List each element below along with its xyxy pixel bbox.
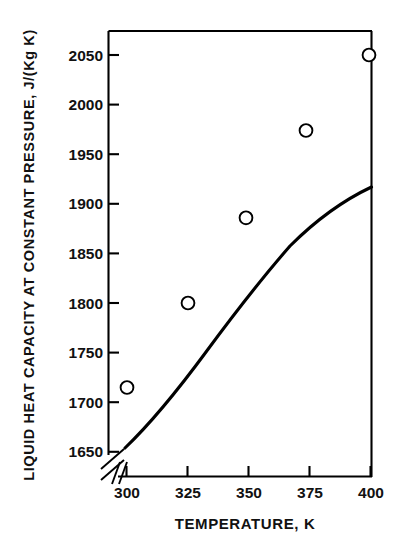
x-tick-label-350: 350 [236, 484, 262, 501]
x-axis-title: TEMPERATURE, K [175, 515, 316, 532]
y-tick-label-1700: 1700 [69, 394, 103, 411]
x-tick-label-375: 375 [297, 484, 323, 501]
x-tick-label-400: 400 [358, 484, 384, 501]
data-point-300 [121, 381, 134, 394]
scatter-plot: 2050 2000 1950 1900 1850 1800 1750 1700 … [0, 0, 402, 555]
y-tick-label-2050: 2050 [69, 47, 103, 64]
chart-figure: 2050 2000 1950 1900 1850 1800 1750 1700 … [0, 0, 402, 555]
y-tick-labels: 2050 2000 1950 1900 1850 1800 1750 1700 … [69, 47, 103, 461]
x-tick-label-300: 300 [114, 484, 140, 501]
y-tick-label-2000: 2000 [69, 96, 103, 113]
y-axis-title: LIQUID HEAT CAPACITY AT CONSTANT PRESSUR… [21, 29, 37, 481]
data-point-400 [363, 49, 376, 62]
y-tick-label-1750: 1750 [69, 344, 103, 361]
data-point-325 [182, 297, 195, 310]
y-tick-label-1900: 1900 [69, 195, 103, 212]
chart-background [0, 0, 402, 555]
x-tick-label-325: 325 [175, 484, 201, 501]
y-tick-label-1650: 1650 [69, 443, 103, 460]
data-point-375 [300, 124, 313, 137]
y-tick-label-1950: 1950 [69, 146, 103, 163]
data-point-350 [240, 211, 253, 224]
y-tick-label-1850: 1850 [69, 245, 103, 262]
y-tick-label-1800: 1800 [69, 295, 103, 312]
